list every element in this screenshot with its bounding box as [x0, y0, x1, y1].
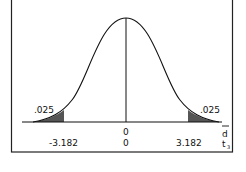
chart-frame	[12, 0, 233, 152]
t-zero-label: 0	[123, 138, 129, 148]
right-tail-label: .025	[200, 105, 220, 115]
t-neg-label: -3.182	[49, 138, 78, 148]
t-pos-label: 3.182	[176, 138, 202, 148]
axis-t-subscript: 3	[227, 144, 230, 150]
axis-d-label: d	[222, 129, 228, 139]
t-distribution-chart: .025 .025 0 -3.182 0 3.182 d t 3	[0, 0, 246, 172]
axis-t-label: t	[222, 139, 226, 149]
d-zero-label: 0	[123, 127, 129, 137]
left-tail-label: .025	[34, 105, 54, 115]
